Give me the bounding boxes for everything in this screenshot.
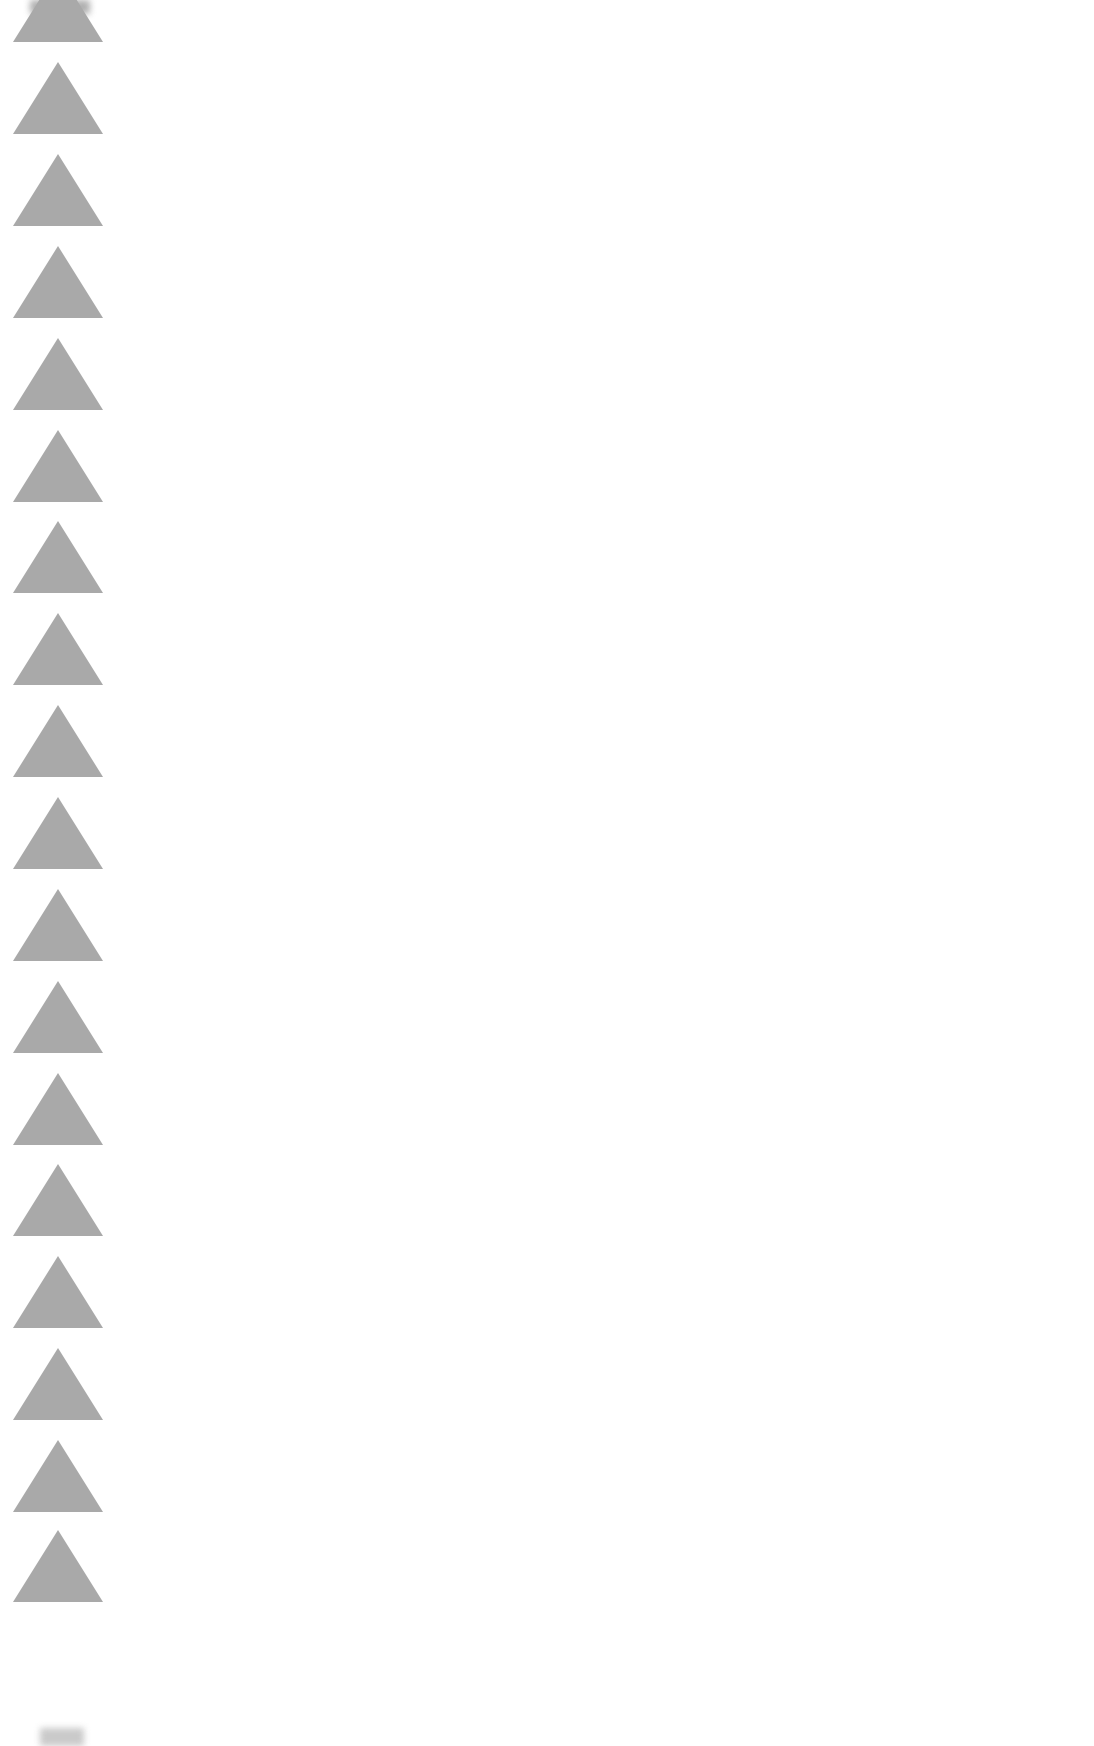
triangle-icon xyxy=(13,797,103,869)
triangle-icon xyxy=(13,62,103,134)
triangle-icon xyxy=(13,338,103,410)
decorative-triangle-border xyxy=(0,0,120,1746)
triangle-icon xyxy=(13,705,103,777)
triangle-icon xyxy=(13,0,103,42)
triangle-icon xyxy=(13,1530,103,1602)
triangle-icon xyxy=(13,889,103,961)
triangle-icon xyxy=(13,521,103,593)
triangle-icon xyxy=(13,1256,103,1328)
triangle-icon xyxy=(13,430,103,502)
triangle-icon xyxy=(13,1164,103,1236)
triangle-icon xyxy=(13,613,103,685)
triangle-icon xyxy=(13,981,103,1053)
triangle-icon xyxy=(13,154,103,226)
scan-smudge xyxy=(40,1728,84,1746)
triangle-icon xyxy=(13,1348,103,1420)
triangle-icon xyxy=(13,1440,103,1512)
blank-page-body xyxy=(120,0,1094,1746)
triangle-icon xyxy=(13,246,103,318)
triangle-icon xyxy=(13,1073,103,1145)
